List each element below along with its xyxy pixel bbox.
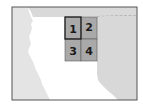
grid-cell-3-label: 3 [69,45,77,58]
grid-cell-2-label: 2 [85,21,93,34]
grid-cell-1-label: 1 [69,23,77,36]
grid: 1 2 3 4 [65,17,97,61]
top-region [28,7,137,17]
grid-cell-4-label: 4 [85,45,93,58]
locator-map: 1 2 3 4 [0,0,143,106]
